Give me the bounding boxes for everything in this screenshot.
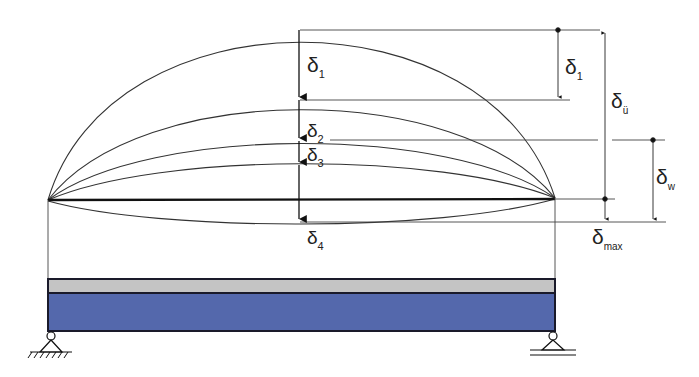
chord-line [48, 199, 555, 200]
svg-text:δü: δü [611, 89, 628, 116]
svg-text:δw: δw [656, 165, 676, 192]
svg-text:δ1: δ1 [565, 55, 583, 82]
curve-initial-camber [48, 42, 555, 200]
svg-text:δ3: δ3 [307, 144, 324, 169]
curve-after-d2 [48, 143, 555, 200]
pin-support-left [28, 332, 72, 358]
curve-after-d3 [48, 164, 555, 200]
beam-top-layer [48, 279, 555, 293]
svg-text:δmax: δmax [592, 225, 623, 252]
svg-text:δ2: δ2 [307, 120, 324, 145]
beam-bottom-layer [48, 293, 555, 331]
svg-text:δ1: δ1 [307, 53, 325, 80]
deflection-curves [48, 42, 555, 224]
svg-text:δ4: δ4 [307, 227, 324, 252]
composite-beam [48, 279, 555, 331]
deflection-diagram: δ1 δ2 δ3 δ4 δ1 δü δw δmax [0, 0, 699, 377]
curve-after-d1 [48, 110, 555, 200]
roller-support-right [530, 332, 576, 355]
curve-final-sag [48, 199, 555, 224]
